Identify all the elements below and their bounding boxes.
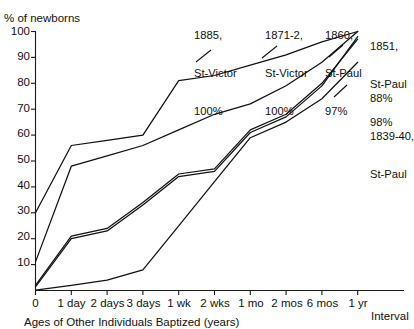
annotation-1860-line3: 97%: [325, 105, 362, 118]
chart-caption: Ages of Other Individuals Baptized (year…: [24, 316, 239, 329]
x-tick-marks: [36, 291, 358, 296]
annotation-1885-line1: 1885,: [194, 29, 237, 42]
annotation-1839-40-st-paul: 88% 1839-40, St-Paul: [370, 66, 414, 206]
annotation-1871-2-st-victor: 1871-2, St-Victor 100%: [265, 3, 308, 143]
annotation-1871-line3: 100%: [265, 105, 308, 118]
annotation-1860-st-paul: 1860, St-Paul 97%: [325, 3, 362, 143]
annotation-1885-line2: St-Victor: [194, 67, 237, 80]
annotation-1839-line3: St-Paul: [370, 168, 414, 181]
annotation-1885-line3: 100%: [194, 105, 237, 118]
annotation-1839-line1: 88%: [370, 92, 414, 105]
annotation-1839-line2: 1839-40,: [370, 130, 414, 143]
annotation-1871-line1: 1871-2,: [265, 29, 308, 42]
annotation-1851-line1: 1851,: [370, 40, 407, 53]
x-tick-label-1-yr: 1 yr: [339, 297, 377, 310]
annotation-1860-line2: St-Paul: [325, 67, 362, 80]
annotation-1860-line1: 1860,: [325, 29, 362, 42]
x-axis-title: Interval: [371, 310, 409, 323]
annotation-1871-line2: St-Victor: [265, 67, 308, 80]
y-tick-marks: [31, 32, 36, 265]
annotation-1885-st-victor: 1885, St-Victor 100%: [194, 3, 237, 143]
